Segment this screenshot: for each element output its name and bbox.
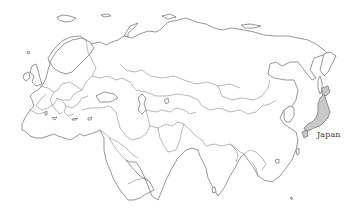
hainan	[275, 159, 279, 163]
sakhalin	[318, 76, 322, 94]
small-island	[290, 197, 292, 200]
eurasia-outline-map	[0, 0, 362, 216]
great-britain	[30, 64, 42, 86]
japan-kyushu	[302, 130, 308, 138]
svalbard	[57, 15, 76, 22]
new-siberian-islands	[241, 24, 261, 28]
severnaya-zemlya	[162, 14, 176, 19]
iceland	[27, 51, 30, 54]
ireland	[23, 72, 30, 81]
franz-josef-land	[101, 14, 111, 17]
japan-highlighted	[304, 94, 330, 132]
japan-hokkaido	[322, 86, 330, 96]
novaya-zemlya	[124, 23, 138, 37]
sri-lanka	[212, 187, 216, 193]
japan-label: Japan	[317, 130, 341, 139]
sardinia	[45, 111, 47, 115]
